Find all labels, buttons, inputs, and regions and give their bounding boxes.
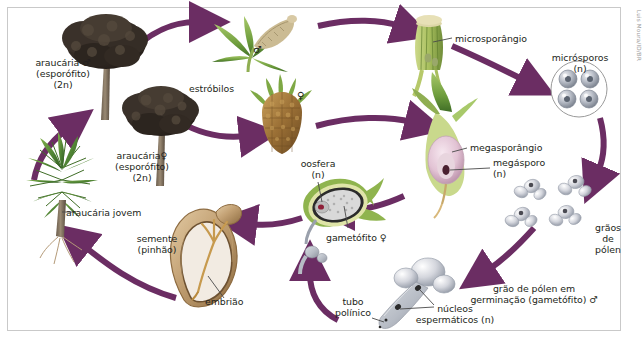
label-graos-de-polen: grãos de pólen <box>585 222 631 256</box>
label-estrobilos: estróbilos <box>189 83 234 94</box>
label-microsporangio: microsporângio <box>455 33 527 44</box>
label-megasporo: megásporo (n) <box>493 157 545 179</box>
label-estrobilo-female-symbol: ♀ <box>297 90 304 101</box>
label-oosfera: oosfera (n) <box>290 158 346 180</box>
label-araucaria-jovem: araucária jovem <box>66 207 141 218</box>
label-embriao: embrião <box>205 296 243 307</box>
label-araucaria-male: araucária ♂ (esporófito) (2n) <box>16 57 110 91</box>
label-microsporos: micrósporos (n) <box>548 52 612 74</box>
figure-canvas: araucária ♂ (esporófito) (2n) araucária♀… <box>0 0 644 346</box>
credit-line: Luis Moura/ID/BR <box>628 10 642 100</box>
label-estrobilo-male-symbol: ♂ <box>253 44 262 55</box>
label-megasporangio: megasporângio <box>470 142 542 153</box>
label-semente: semente (pinhão) <box>128 233 186 255</box>
label-tubo-polinico: tubo polínico <box>330 296 376 318</box>
label-gametofito-female: gametófito ♀ <box>326 232 387 243</box>
label-araucaria-female: araucária♀ (esporófito) (2n) <box>99 150 185 184</box>
label-nucleos-espermaticos: núcleos espermáticos (n) <box>404 303 506 325</box>
